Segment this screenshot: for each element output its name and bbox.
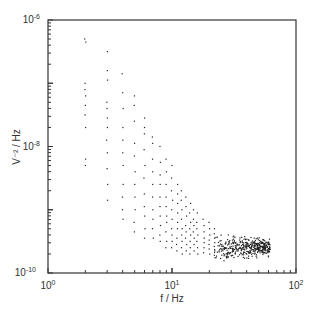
data-point [144, 165, 145, 166]
data-point [197, 212, 198, 213]
data-point [85, 127, 86, 128]
data-point [203, 252, 204, 253]
data-point [244, 252, 245, 253]
data-point [152, 136, 153, 137]
data-point [233, 235, 234, 236]
data-point [231, 255, 232, 256]
data-point [229, 240, 230, 241]
data-point [177, 228, 178, 229]
data-point [85, 159, 86, 160]
data-point [122, 219, 123, 220]
data-point [176, 238, 177, 239]
data-point [266, 242, 267, 243]
data-point [152, 171, 153, 172]
data-point [204, 242, 205, 243]
data-point [258, 243, 259, 244]
data-point [232, 255, 233, 256]
data-point [232, 246, 233, 247]
data-point [214, 252, 215, 253]
data-point [166, 171, 167, 172]
data-point [225, 247, 226, 248]
data-point [223, 253, 224, 254]
data-point [243, 246, 244, 247]
data-point [231, 243, 232, 244]
data-point [194, 238, 195, 239]
data-point [193, 219, 194, 220]
data-point [237, 256, 238, 257]
data-point [253, 242, 254, 243]
data-point [143, 178, 144, 179]
data-point [134, 105, 135, 106]
data-point [230, 248, 231, 249]
data-point [250, 237, 251, 238]
data-point [256, 256, 257, 257]
data-point [249, 253, 250, 254]
data-point [265, 252, 266, 253]
data-point [243, 242, 244, 243]
data-point [202, 219, 203, 220]
data-point [257, 251, 258, 252]
data-point [219, 251, 220, 252]
data-point [196, 222, 197, 223]
data-point [181, 241, 182, 242]
data-point [144, 193, 145, 194]
data-point [259, 245, 260, 246]
data-point [242, 247, 243, 248]
data-point [226, 250, 227, 251]
data-point [225, 243, 226, 244]
data-point [240, 242, 241, 243]
data-point [165, 231, 166, 232]
data-point [250, 250, 251, 251]
data-point [85, 105, 86, 106]
data-point [84, 83, 85, 84]
data-point [219, 245, 220, 246]
data-point [234, 240, 235, 241]
data-point [107, 51, 108, 52]
data-point [251, 243, 252, 244]
data-point [186, 244, 187, 245]
data-point [246, 239, 247, 240]
data-point [220, 235, 221, 236]
data-point [255, 240, 256, 241]
data-point [230, 252, 231, 253]
data-point [152, 228, 153, 229]
data-point [181, 247, 182, 248]
data-point [153, 238, 154, 239]
data-point [252, 253, 253, 254]
data-point [171, 247, 172, 248]
data-point [122, 92, 123, 93]
data-point [221, 249, 222, 250]
data-point [237, 245, 238, 246]
data-point [181, 219, 182, 220]
data-point [144, 149, 145, 150]
data-point [264, 244, 265, 245]
data-point [171, 234, 172, 235]
data-point [262, 249, 263, 250]
data-point [209, 234, 210, 235]
data-point [182, 228, 183, 229]
data-point [159, 146, 160, 147]
data-point [215, 257, 216, 258]
data-point [224, 255, 225, 256]
data-point [190, 234, 191, 235]
data-point [231, 246, 232, 247]
data-point [216, 255, 217, 256]
data-point [171, 178, 172, 179]
data-point [245, 239, 246, 240]
data-point [135, 171, 136, 172]
data-point [248, 245, 249, 246]
data-point [226, 253, 227, 254]
data-point [134, 231, 135, 232]
data-point [85, 42, 86, 43]
data-point [232, 248, 233, 249]
data-point [208, 244, 209, 245]
data-point [166, 206, 167, 207]
data-point [253, 250, 254, 251]
data-point [260, 252, 261, 253]
data-point [196, 241, 197, 242]
data-point [185, 225, 186, 226]
data-point [239, 247, 240, 248]
data-point [246, 257, 247, 258]
data-point [248, 240, 249, 241]
x-tick-label: 102 [288, 279, 303, 291]
